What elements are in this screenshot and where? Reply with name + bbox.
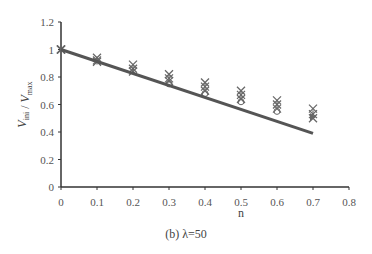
chart: 00.20.40.60.811.200.10.20.30.40.50.60.70…	[0, 0, 372, 225]
y-tick-label: 0.2	[40, 154, 54, 166]
x-tick-label: 0	[58, 196, 64, 208]
fit-line	[61, 50, 313, 134]
y-tick-label: 0	[49, 181, 55, 193]
x-axis-title: n	[238, 206, 244, 220]
x-tick-label: 0.1	[90, 196, 104, 208]
y-axis-title: Vini / Vmax	[15, 81, 34, 127]
x-tick-label: 0.4	[198, 196, 212, 208]
y-tick-label: 1.2	[40, 16, 54, 28]
x-tick-label: 0.8	[342, 196, 356, 208]
y-tick-label: 0.4	[40, 126, 54, 138]
x-tick-label: 0.6	[270, 196, 284, 208]
y-tick-label: 0.6	[40, 99, 54, 111]
y-tick-label: 0.8	[40, 71, 54, 83]
x-tick-label: 0.2	[126, 196, 140, 208]
x-tick-label: 0.7	[306, 196, 320, 208]
y-tick-label: 1	[49, 44, 55, 56]
figure-caption: (b) λ=50	[0, 227, 372, 242]
x-tick-label: 0.3	[162, 196, 176, 208]
